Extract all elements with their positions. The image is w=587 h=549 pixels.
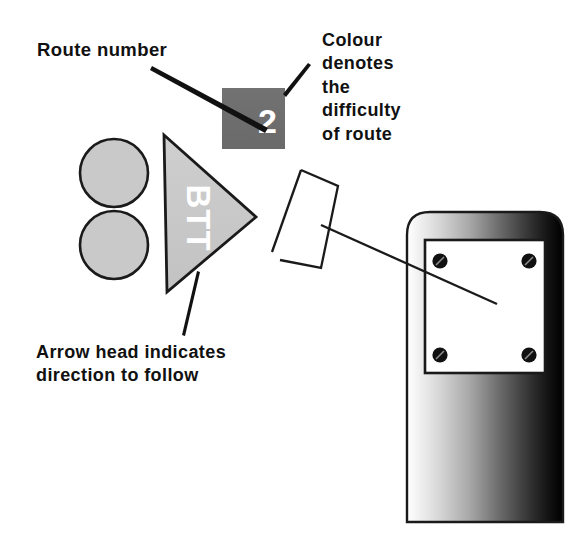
label-arrow-head: Arrow head indicates direction to follow <box>36 341 226 387</box>
screw-top-left <box>432 253 447 268</box>
label-route-number: Route number <box>37 38 167 61</box>
sign-plate-outline <box>272 170 338 268</box>
label-colour-difficulty: Colour denotes the difficulty of route <box>322 29 401 146</box>
route-number-tile: 2 <box>222 88 285 149</box>
leader-arrow-head <box>182 271 200 336</box>
screw-bottom-left <box>432 347 447 362</box>
leader-colour-difficulty <box>283 63 311 97</box>
direction-arrow-label: BTT <box>180 184 217 251</box>
lower-disc <box>80 211 148 279</box>
waymarker-post <box>407 212 563 522</box>
screw-top-right <box>521 253 536 268</box>
screw-bottom-right <box>521 347 536 362</box>
route-number-value: 2 <box>258 102 277 140</box>
diagram-graphics: BTT 2 <box>0 0 587 549</box>
upper-disc <box>80 139 148 207</box>
direction-arrow: BTT <box>164 135 256 292</box>
diagram-canvas: BTT 2 Route number Colour denotes the di… <box>0 0 587 549</box>
